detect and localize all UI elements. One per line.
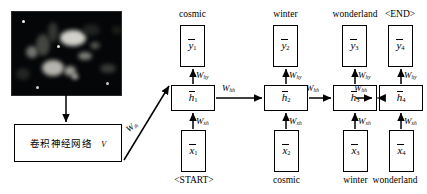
weight-label-xh-4: Wxh	[404, 116, 417, 126]
weight-label-hh-2: Whh	[306, 83, 319, 93]
weight-label-xh-2: Wxh	[289, 116, 302, 126]
weight-label-hh-3: Whh	[354, 83, 367, 93]
weight-label-hy-4: Why	[404, 70, 417, 80]
weight-label-hy-2: Why	[289, 70, 302, 80]
weight-label-xh-1: Wxh	[196, 116, 209, 126]
rnn-captioning-diagram: 卷积神经网络 v cosmic y1 winter y2 wonderland …	[0, 0, 427, 194]
weight-label-hy-1: Why	[196, 70, 209, 80]
weight-label-hh-1: Whh	[222, 83, 235, 93]
arrow-layer	[0, 0, 427, 194]
weight-label-xh-3: Wxh	[358, 116, 371, 126]
weight-label-hy-3: Why	[358, 70, 371, 80]
